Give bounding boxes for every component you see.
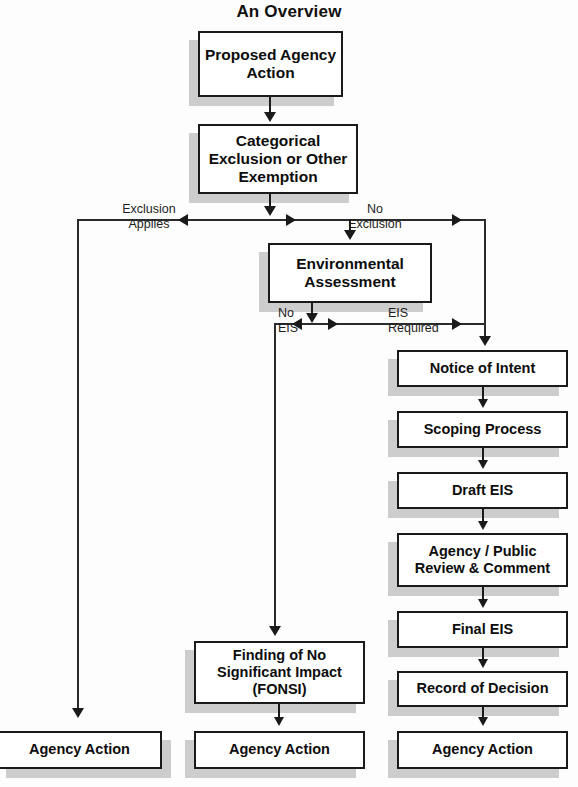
- flowchart-canvas: An Overview Proposed Agency Action Categ…: [0, 0, 578, 787]
- node-agency-public-review[interactable]: Agency / Public Review & Comment: [397, 533, 568, 587]
- page-title: An Overview: [0, 2, 578, 22]
- node-agency-action-right-label: Agency Action: [428, 741, 537, 758]
- node-record-of-decision-label: Record of Decision: [412, 680, 552, 697]
- arrowhead-notice-to-scoping: [478, 399, 488, 408]
- node-categorical-exclusion[interactable]: Categorical Exclusion or Other Exemption: [198, 124, 358, 194]
- arrowhead-no-eis-to-fonsi: [269, 626, 281, 636]
- arrowhead-scoping-to-draft-eis: [478, 460, 488, 469]
- edge-label-no-exclusion: No Exclusion: [320, 202, 430, 233]
- arrowhead-no-exclusion: [286, 214, 296, 226]
- node-draft-eis-label: Draft EIS: [448, 482, 517, 499]
- node-agency-action-middle[interactable]: Agency Action: [194, 731, 365, 769]
- arrowhead-exclusion-to-agency-action-left: [72, 708, 84, 718]
- node-proposed-agency-action[interactable]: Proposed Agency Action: [198, 31, 343, 97]
- connector-exclusion-applies-vertical: [77, 219, 79, 713]
- node-agency-action-left-label: Agency Action: [25, 741, 134, 758]
- arrowhead-no-exclusion-to-notice: [479, 336, 491, 346]
- arrowhead-eis-required: [328, 318, 338, 330]
- arrowhead-categorical-to-split: [264, 206, 276, 216]
- arrowhead-fonsi-to-agency-action-middle: [274, 717, 284, 726]
- node-agency-action-left[interactable]: Agency Action: [0, 731, 162, 769]
- node-agency-action-right[interactable]: Agency Action: [397, 731, 568, 769]
- node-agency-public-review-label: Agency / Public Review & Comment: [411, 543, 554, 577]
- arrowhead-proposed-to-categorical: [264, 112, 276, 122]
- connector-no-eis-vertical: [274, 323, 276, 628]
- node-environmental-assessment[interactable]: Environmental Assessment: [268, 243, 432, 303]
- node-record-of-decision[interactable]: Record of Decision: [397, 671, 568, 707]
- node-notice-of-intent[interactable]: Notice of Intent: [397, 350, 568, 387]
- edge-label-exclusion-applies: Exclusion Applies: [96, 202, 202, 233]
- arrowhead-no-exclusion-far: [452, 214, 462, 226]
- node-final-eis[interactable]: Final EIS: [397, 611, 568, 648]
- arrowhead-record-to-agency-action-right: [478, 717, 488, 726]
- arrowhead-review-to-final-eis: [478, 599, 488, 608]
- node-draft-eis[interactable]: Draft EIS: [397, 472, 568, 509]
- node-notice-of-intent-label: Notice of Intent: [426, 360, 540, 377]
- node-categorical-exclusion-label: Categorical Exclusion or Other Exemption: [205, 132, 352, 187]
- node-fonsi[interactable]: Finding of No Significant Impact (FONSI): [194, 641, 365, 704]
- node-fonsi-label: Finding of No Significant Impact (FONSI): [213, 647, 346, 698]
- node-proposed-agency-action-label: Proposed Agency Action: [201, 46, 340, 83]
- node-scoping-process-label: Scoping Process: [420, 421, 546, 438]
- node-final-eis-label: Final EIS: [448, 621, 517, 638]
- node-scoping-process[interactable]: Scoping Process: [397, 411, 568, 448]
- node-agency-action-middle-label: Agency Action: [225, 741, 334, 758]
- node-environmental-assessment-label: Environmental Assessment: [292, 255, 408, 292]
- edge-label-eis-required: EIS Required: [388, 306, 468, 337]
- arrowhead-draft-eis-to-review: [478, 521, 488, 530]
- edge-label-no-eis: No EIS: [278, 306, 318, 337]
- arrowhead-final-eis-to-record: [478, 659, 488, 668]
